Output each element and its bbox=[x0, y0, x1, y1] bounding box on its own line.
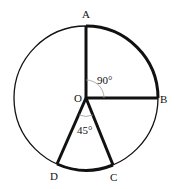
arc-dc bbox=[57, 164, 113, 170]
point-label-c: C bbox=[110, 171, 117, 183]
angle-label-90: 90° bbox=[97, 74, 112, 86]
point-label-d: D bbox=[50, 170, 58, 182]
point-label-b: B bbox=[160, 93, 167, 105]
circle-diagram: A B C D O 90° 45° bbox=[0, 0, 176, 189]
angle-label-45: 45° bbox=[77, 124, 92, 136]
angle-arc-45 bbox=[79, 115, 93, 116]
center-label-o: O bbox=[74, 92, 82, 104]
point-label-a: A bbox=[82, 8, 90, 20]
arc-ab bbox=[86, 26, 158, 98]
